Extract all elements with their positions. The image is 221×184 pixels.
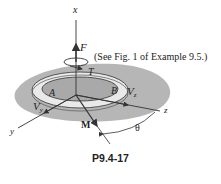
shear-z-label: Vz (127, 86, 136, 99)
y-axis-label: y (10, 127, 14, 136)
z-axis-label: z (164, 106, 168, 115)
diagram: x F (See Fig. 1 of Example 9.5.) T A B V… (0, 0, 221, 184)
moment-label: M (81, 120, 90, 130)
torque-label: T (88, 67, 94, 77)
force-label: F (80, 42, 87, 53)
angle-label: θ (135, 123, 140, 133)
point-b-label: B (111, 86, 117, 96)
moment-line (97, 126, 110, 144)
figure-caption: P9.4-17 (0, 152, 221, 164)
shear-y-label: Vy (33, 101, 43, 114)
point-a-label: A (49, 88, 55, 98)
x-axis-label: x (73, 5, 77, 15)
reference-note: (See Fig. 1 of Example 9.5.) (94, 52, 207, 62)
